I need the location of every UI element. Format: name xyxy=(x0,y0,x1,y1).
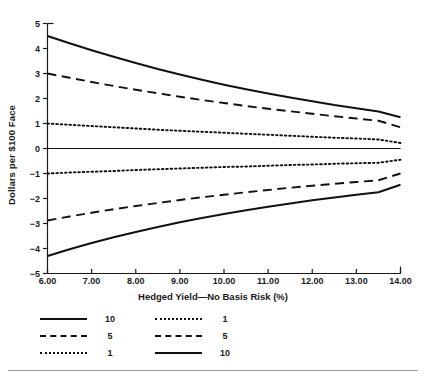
x-tick-label: 12.00 xyxy=(301,276,324,286)
curve-1-short xyxy=(48,160,401,174)
y-tick-label: −3 xyxy=(18,219,40,229)
data-curves xyxy=(48,36,401,256)
chart-legend: 1051 1510 xyxy=(40,310,270,362)
legend-label: 10 xyxy=(202,348,248,358)
y-tick-label: 5 xyxy=(18,19,40,29)
x-tick-label: 14.00 xyxy=(389,276,412,286)
x-tick-label: 11.00 xyxy=(257,276,279,286)
legend-item: 5 xyxy=(155,327,265,344)
x-tick-label: 10.00 xyxy=(213,276,236,286)
footer-divider xyxy=(8,370,418,371)
legend-swatch-dashed-icon xyxy=(155,330,202,342)
legend-column-right: 1510 xyxy=(155,310,265,362)
legend-item: 10 xyxy=(155,344,265,361)
y-tick-label: −4 xyxy=(18,244,40,254)
x-axis-label: Hedged Yield—No Basis Risk (%) xyxy=(0,291,426,302)
curve-5 xyxy=(48,74,401,128)
y-tick-label: 0 xyxy=(18,144,40,154)
legend-swatch-dashed-icon xyxy=(40,330,87,342)
legend-swatch-solid-icon xyxy=(155,347,202,359)
x-tick-label: 13.00 xyxy=(345,276,368,286)
legend-item: 5 xyxy=(40,327,150,344)
curve-1 xyxy=(48,124,401,144)
y-tick-label: 4 xyxy=(18,44,40,54)
y-tick-label: −5 xyxy=(18,269,40,279)
x-tick-label: 7.00 xyxy=(83,276,101,286)
x-tick-label: 9.00 xyxy=(171,276,189,286)
legend-swatch-solid-icon xyxy=(40,313,87,325)
x-tick-label: 8.00 xyxy=(127,276,145,286)
x-tick-label: 6.00 xyxy=(39,276,57,286)
legend-item: 1 xyxy=(155,310,265,327)
y-tick-label: −2 xyxy=(18,194,40,204)
legend-item: 10 xyxy=(40,310,150,327)
legend-label: 5 xyxy=(202,331,248,341)
legend-swatch-dotted-icon xyxy=(40,347,87,359)
curve-10 xyxy=(48,36,401,117)
legend-label: 10 xyxy=(87,314,133,324)
legend-label: 5 xyxy=(87,331,133,341)
legend-item: 1 xyxy=(40,344,150,361)
legend-label: 1 xyxy=(87,348,133,358)
legend-label: 1 xyxy=(202,314,248,324)
y-tick-label: −1 xyxy=(18,169,40,179)
legend-swatch-dotted-icon xyxy=(155,313,202,325)
chart-figure: Dollars per $100 Face −5−4−3−2−1012345 6… xyxy=(0,0,426,381)
legend-column-left: 1051 xyxy=(40,310,150,362)
y-tick-label: 2 xyxy=(18,94,40,104)
y-tick-label: 3 xyxy=(18,69,40,79)
y-tick-label: 1 xyxy=(18,119,40,129)
